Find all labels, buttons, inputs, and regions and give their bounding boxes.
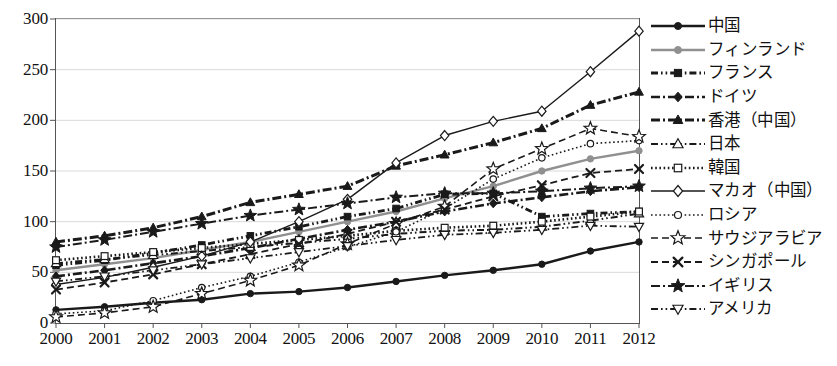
- data-point-marker: [50, 310, 63, 322]
- open-triangle-icon: [648, 132, 708, 156]
- legend-item-10[interactable]: シンガポール: [648, 250, 837, 274]
- legend-label: マカオ（中国）: [708, 182, 823, 199]
- data-point-marker: [587, 140, 593, 146]
- data-point-marker: [293, 203, 306, 215]
- open-circle-icon: [648, 203, 708, 227]
- data-point-marker: [535, 142, 548, 154]
- data-point-marker: [587, 213, 594, 220]
- data-point-marker: [440, 131, 448, 141]
- data-point-marker: [539, 155, 545, 161]
- legend-label: 日本: [708, 135, 741, 152]
- data-point-marker: [538, 218, 545, 225]
- data-point-marker: [393, 229, 399, 235]
- data-point-marker: [635, 165, 643, 173]
- legend-item-6[interactable]: 韓国: [648, 156, 837, 180]
- legend-label: フランス: [708, 64, 774, 81]
- data-point-marker: [247, 290, 253, 296]
- data-point-marker: [539, 168, 545, 174]
- data-point-marker: [393, 278, 399, 284]
- legend-label: ドイツ: [708, 88, 757, 105]
- legend-label: イギリス: [708, 277, 774, 294]
- data-point-marker: [586, 67, 594, 77]
- legend-item-0[interactable]: 中国: [648, 14, 837, 38]
- data-point-marker: [150, 249, 157, 256]
- data-point-marker: [635, 26, 643, 36]
- legend-label: フィンランド: [708, 41, 806, 58]
- data-point-marker: [674, 70, 681, 77]
- legend-item-5[interactable]: 日本: [648, 132, 837, 156]
- cross-x-icon: [648, 250, 708, 274]
- data-point-marker: [246, 198, 255, 206]
- filled-circle-icon: [648, 38, 708, 62]
- data-point-marker: [674, 92, 682, 102]
- data-point-marker: [671, 231, 685, 244]
- y-tick-label: 200: [2, 111, 48, 128]
- legend-item-7[interactable]: マカオ（中国）: [648, 179, 837, 203]
- legend-label: アメリカ: [708, 300, 773, 317]
- data-point-marker: [636, 208, 643, 215]
- legend-label: ロシア: [708, 206, 757, 223]
- data-point-marker: [674, 22, 681, 29]
- legend-item-2[interactable]: フランス: [648, 61, 837, 85]
- legend-item-1[interactable]: フィンランド: [648, 38, 837, 62]
- legend-label: シンガポール: [708, 253, 806, 270]
- data-point-marker: [636, 148, 642, 154]
- y-tick-label: 300: [2, 10, 48, 27]
- open-down-triangle-icon: [648, 297, 708, 321]
- data-point-marker: [391, 237, 400, 245]
- data-point-marker: [539, 261, 545, 267]
- y-tick-label: 50: [2, 263, 48, 280]
- data-point-marker: [538, 106, 546, 116]
- data-point-marker: [341, 197, 354, 209]
- data-point-marker: [490, 176, 496, 182]
- data-point-marker: [344, 213, 351, 220]
- data-point-marker: [489, 116, 497, 126]
- legend-label: 香港（中国）: [708, 112, 806, 129]
- filled-square-icon: [648, 61, 708, 85]
- data-point-marker: [674, 46, 681, 53]
- x-tick-label: 2012: [609, 330, 669, 347]
- data-point-marker: [674, 164, 681, 171]
- legend-label: 韓国: [708, 159, 741, 176]
- data-point-marker: [584, 122, 597, 134]
- legend-item-11[interactable]: イギリス: [648, 274, 837, 298]
- filled-diamond-icon: [648, 85, 708, 109]
- open-star-icon: [648, 226, 708, 250]
- legend-label: サウジアラビア: [708, 230, 823, 247]
- data-point-marker: [244, 209, 257, 221]
- data-point-marker: [53, 257, 60, 264]
- open-diamond-icon: [648, 179, 708, 203]
- legend-item-3[interactable]: ドイツ: [648, 85, 837, 109]
- y-tick-label: 250: [2, 61, 48, 78]
- data-point-marker: [344, 284, 350, 290]
- data-point-marker: [671, 278, 685, 291]
- data-point-marker: [537, 124, 546, 132]
- legend-item-8[interactable]: ロシア: [648, 203, 837, 227]
- data-point-marker: [393, 205, 400, 212]
- data-point-marker: [490, 267, 496, 273]
- y-tick-label: 150: [2, 162, 48, 179]
- chart-legend: 中国フィンランドフランスドイツ香港（中国）日本韓国マカオ（中国）ロシアサウジアラ…: [648, 14, 837, 326]
- data-point-marker: [293, 259, 306, 271]
- filled-circle-icon: [648, 14, 708, 38]
- data-point-marker: [490, 222, 497, 229]
- data-point-marker: [674, 211, 681, 218]
- data-point-marker: [587, 248, 593, 254]
- data-point-marker: [636, 239, 642, 245]
- filled-triangle-icon: [648, 108, 708, 132]
- data-point-marker: [101, 253, 108, 260]
- series-line: [56, 151, 639, 271]
- y-tick-label: 100: [2, 213, 48, 230]
- open-square-icon: [648, 156, 708, 180]
- legend-item-9[interactable]: サウジアラビア: [648, 226, 837, 250]
- legend-item-4[interactable]: 香港（中国）: [648, 108, 837, 132]
- chart-root: 050100150200250300 200020012002200320042…: [0, 0, 837, 366]
- series-1: [53, 148, 642, 274]
- filled-star-icon: [648, 274, 708, 298]
- legend-item-12[interactable]: アメリカ: [648, 297, 837, 321]
- data-point-marker: [296, 288, 302, 294]
- data-point-marker: [587, 156, 593, 162]
- data-point-marker: [441, 272, 447, 278]
- legend-label: 中国: [708, 17, 741, 34]
- data-point-marker: [441, 224, 448, 231]
